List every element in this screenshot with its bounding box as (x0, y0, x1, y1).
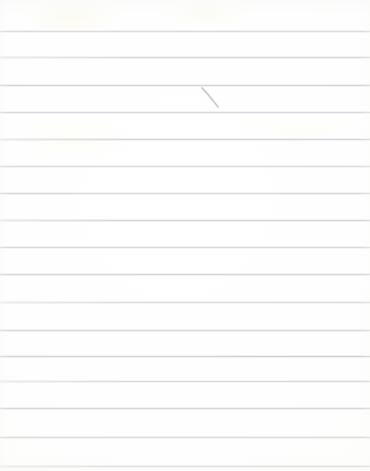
paper-background (0, 0, 370, 471)
scanned-paper-page (0, 0, 370, 471)
